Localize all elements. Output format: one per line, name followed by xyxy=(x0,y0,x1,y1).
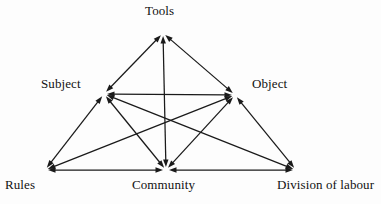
solid-triangle-arrowhead xyxy=(169,167,177,172)
edge-line xyxy=(51,101,99,162)
edge-line xyxy=(170,39,228,89)
edge-line xyxy=(111,40,157,88)
node-label-community: Community xyxy=(132,178,195,192)
edge-line xyxy=(241,102,290,162)
edges-group xyxy=(47,35,294,173)
edge-line xyxy=(110,101,160,162)
node-label-rules: Rules xyxy=(5,178,35,192)
edge-line xyxy=(113,94,225,95)
solid-triangle-arrowhead xyxy=(163,159,168,167)
solid-triangle-arrowhead xyxy=(161,36,166,44)
node-label-object: Object xyxy=(252,77,287,91)
node-label-subject: Subject xyxy=(41,77,81,91)
diagram-canvas xyxy=(0,0,381,204)
solid-triangle-arrowhead xyxy=(156,167,164,172)
node-label-tools: Tools xyxy=(145,4,174,18)
edge-line xyxy=(113,97,288,166)
activity-system-diagram: Tools Subject Object Rules Community Div… xyxy=(0,0,381,204)
node-label-division-of-labour: Division of labour xyxy=(277,178,374,192)
edge-line xyxy=(163,42,166,160)
